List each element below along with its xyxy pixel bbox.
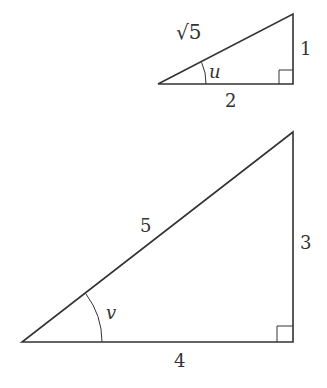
small-base-label: 2 (225, 92, 236, 110)
large-right-angle-marker (277, 326, 293, 342)
large-angle-arc (86, 294, 102, 342)
large-base-label: 4 (174, 352, 185, 370)
triangles-diagram (0, 0, 327, 388)
large-hypotenuse-label: 5 (140, 217, 151, 235)
small-angle-label: u (209, 63, 221, 81)
large-triangle (22, 132, 293, 342)
small-hypotenuse-label: √5 (176, 22, 201, 42)
small-right-angle-marker (279, 70, 293, 84)
small-vertical-label: 1 (300, 40, 311, 58)
large-vertical-label: 3 (300, 234, 311, 252)
large-angle-label: v (106, 304, 116, 322)
small-angle-arc (202, 62, 206, 84)
